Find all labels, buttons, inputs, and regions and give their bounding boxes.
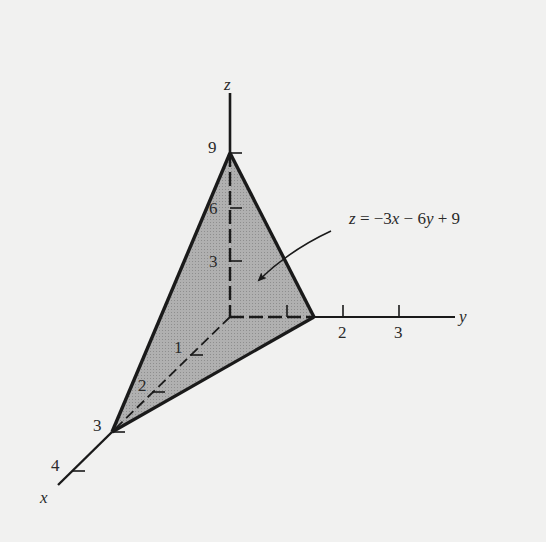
plane-diagram: z y x 3 6 9 2 3 1 2 3 4 z = −3x − 6y + 9 bbox=[0, 0, 546, 542]
y-tick-label-2: 2 bbox=[338, 323, 347, 342]
z-tick-label-3: 3 bbox=[209, 252, 218, 271]
z-axis-label: z bbox=[223, 75, 231, 94]
y-axis-label: y bbox=[457, 307, 467, 326]
plane-equation-label: z = −3x − 6y + 9 bbox=[348, 209, 460, 228]
x-tick-label-1: 1 bbox=[174, 338, 183, 357]
z-tick-label-9: 9 bbox=[208, 138, 217, 157]
y-tick-label-3: 3 bbox=[394, 323, 403, 342]
x-tick-label-3: 3 bbox=[93, 416, 102, 435]
x-axis-label: x bbox=[39, 488, 48, 507]
x-axis-solid bbox=[58, 432, 112, 485]
x-tick-label-4: 4 bbox=[51, 456, 60, 475]
x-tick-label-2: 2 bbox=[138, 376, 147, 395]
z-tick-label-6: 6 bbox=[209, 199, 218, 218]
